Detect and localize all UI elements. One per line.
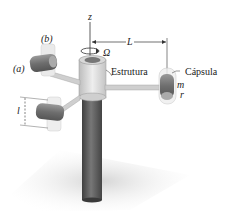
spinning-frame-diagram: z Ω L Estrutura Cápsula m r (a) (b) l xyxy=(0,0,237,213)
vertical-post xyxy=(82,95,102,200)
radius-label: r xyxy=(180,90,184,100)
length-L-label: L xyxy=(126,37,134,47)
z-axis-label: z xyxy=(88,12,92,22)
frame-label: Estrutura xyxy=(111,67,148,77)
position-b-label: (b) xyxy=(41,34,53,44)
position-a-label: (a) xyxy=(13,64,25,74)
omega-label: Ω xyxy=(103,48,110,58)
length-l-label: l xyxy=(17,106,20,116)
arm-right xyxy=(105,85,161,90)
frame-hub xyxy=(79,60,106,98)
cylinder-lower xyxy=(35,103,65,122)
capsule-label: Cápsula xyxy=(185,67,217,77)
diagram-drawing xyxy=(0,0,237,213)
